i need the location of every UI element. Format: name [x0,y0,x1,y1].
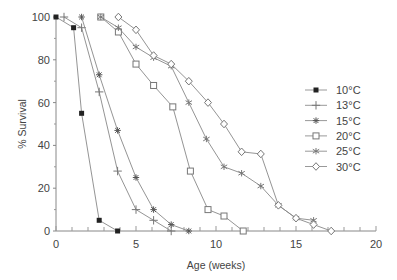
open-square-marker [240,228,246,234]
open-square-marker [205,207,211,213]
asterisk-marker [96,72,102,78]
plus-marker [113,167,121,175]
y-axis-label: % Survival [16,99,28,149]
series-line [101,17,314,220]
x-marker [221,164,227,170]
asterisk-marker [186,228,192,234]
y-tick-label: 80 [38,54,50,66]
legend-label: 30°C [336,161,361,173]
open-diamond-marker [257,150,264,158]
x-tick-label: 5 [133,238,139,250]
series-line [82,17,189,231]
open-square-marker [313,133,319,139]
x-axis-label: Age (weeks) [187,259,245,271]
open-square-marker [170,104,176,110]
open-square-marker [187,168,193,174]
filled-square-marker [115,229,120,234]
x-marker [238,170,244,176]
legend-item: 30°C [305,161,361,173]
open-diamond-marker [238,148,245,156]
x-tick-label: 10 [210,238,222,250]
asterisk-marker [78,14,84,20]
survival-chart: 02040608010005101520 10°C13°C15°C20°C25°… [0,0,397,280]
x-tick-label: 0 [53,238,59,250]
y-tick-label: 20 [38,182,50,194]
y-tick-label: 40 [38,139,50,151]
x-tick-label: 20 [370,238,382,250]
open-diamond-marker [133,26,140,34]
open-diamond-marker [313,163,320,171]
filled-square-marker [79,111,84,116]
legend-item: 15°C [305,115,361,127]
series-13c [60,13,176,235]
filled-square-marker [54,15,59,20]
asterisk-marker [114,127,120,133]
plus-marker [95,88,103,96]
open-diamond-marker [150,52,157,60]
y-tick-label: 100 [32,11,50,23]
legend-item: 25°C [305,145,361,157]
series-25c [98,14,317,224]
legend-label: 15°C [336,115,361,127]
series-line [56,17,118,231]
x-marker [203,136,209,142]
asterisk-marker [133,174,139,180]
open-diamond-marker [328,227,335,235]
x-tick-label: 15 [290,238,302,250]
plus-marker [149,216,157,224]
series-line [64,17,171,231]
asterisk-marker [150,206,156,212]
legend: 10°C13°C15°C20°C25°C30°C [305,84,361,173]
open-diamond-marker [115,13,122,21]
y-tick-label: 0 [44,225,50,237]
open-square-marker [133,61,139,67]
legend-item: 13°C [305,99,361,111]
filled-square-marker [314,88,319,93]
legend-label: 20°C [336,130,361,142]
filled-square-marker [71,25,76,30]
open-square-marker [151,82,157,88]
asterisk-marker [168,221,174,227]
series-group [54,13,335,235]
filled-square-marker [97,218,102,223]
legend-item: 20°C [305,130,361,142]
asterisk-marker [313,117,319,123]
legend-label: 10°C [336,84,361,96]
legend-item: 10°C [305,84,361,96]
y-tick-label: 60 [38,97,50,109]
open-diamond-marker [293,214,300,222]
plus-marker [132,205,140,213]
x-marker [186,99,192,105]
open-square-marker [221,213,227,219]
plus-marker [312,101,320,109]
legend-label: 13°C [336,99,361,111]
legend-label: 25°C [336,145,361,157]
series-30c [115,13,335,235]
